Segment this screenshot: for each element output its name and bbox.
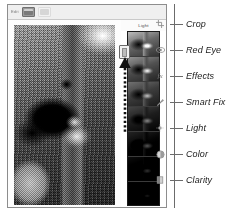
callout-annotations: Crop Red Eye fx Effects Smart Fix	[166, 4, 228, 208]
crop-icon	[155, 19, 165, 29]
callout-tick	[170, 50, 183, 51]
callout-label: Smart Fix	[186, 96, 225, 108]
effects-fx-icon: fx	[155, 71, 165, 81]
callout-tick	[170, 180, 183, 181]
callout-tick	[170, 24, 183, 25]
red-eye-icon	[155, 45, 165, 55]
callout-label: Red Eye	[186, 44, 221, 56]
callout-tick	[170, 154, 183, 155]
photo-grain-overlay	[14, 25, 115, 205]
smart-fix-wand-icon	[155, 97, 165, 107]
light-sun-icon	[155, 123, 165, 133]
single-photo-icon	[24, 9, 33, 15]
callout-tick	[170, 128, 183, 129]
split-view-icon	[40, 9, 49, 15]
callout-label: Light	[186, 122, 206, 134]
photo-canvas[interactable]	[14, 25, 115, 205]
toolbar-mode-label: Edit	[11, 10, 19, 14]
editor-window: Edit Light	[7, 4, 167, 208]
before-after-button[interactable]	[38, 7, 51, 17]
callout-label: Crop	[186, 18, 206, 30]
callout-tick	[170, 76, 183, 77]
light-thumbnail[interactable]	[128, 182, 159, 206]
color-wheel-icon	[155, 149, 165, 159]
dotted-arrow-annotation	[118, 57, 132, 135]
thumbnail-image	[128, 182, 159, 206]
callout-label: Effects	[186, 70, 214, 82]
callout-tick	[170, 102, 183, 103]
callout-label: Color	[186, 148, 208, 160]
callout-label: Clarity	[186, 174, 212, 186]
editor-toolbar: Edit	[8, 5, 166, 20]
single-view-button[interactable]	[22, 7, 35, 17]
clarity-icon	[155, 175, 165, 185]
screenshot-root: Edit Light	[0, 0, 232, 213]
callout-vertical-rule	[174, 4, 175, 208]
